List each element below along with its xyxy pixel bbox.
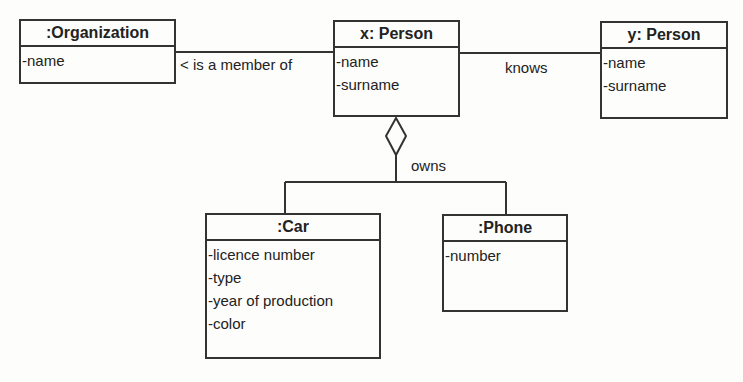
object-title: x: Person xyxy=(335,22,458,48)
attribute-list: -number xyxy=(444,242,566,267)
attribute-list: -licence number -type -year of productio… xyxy=(207,241,379,335)
knows-label: knows xyxy=(505,59,548,76)
attribute: -name xyxy=(603,51,726,74)
attribute: -type xyxy=(208,266,379,289)
attribute-list: -name xyxy=(21,47,174,72)
attribute-list: -name -surname xyxy=(335,48,458,96)
attribute: -name xyxy=(22,49,174,72)
owns-label: owns xyxy=(411,157,446,174)
object-title: y: Person xyxy=(602,23,726,49)
attribute: -year of production xyxy=(208,289,379,312)
object-organization: :Organization -name xyxy=(19,19,176,84)
object-x-person: x: Person -name -surname xyxy=(333,20,460,117)
attribute: -licence number xyxy=(208,243,379,266)
object-y-person: y: Person -name -surname xyxy=(600,21,728,119)
attribute: -number xyxy=(445,244,566,267)
object-title: :Car xyxy=(207,215,379,241)
object-title: :Organization xyxy=(21,21,174,47)
member-of-label: < is a member of xyxy=(180,56,292,73)
object-car: :Car -licence number -type -year of prod… xyxy=(205,213,381,359)
attribute: -name xyxy=(336,50,458,73)
aggregation-diamond-icon xyxy=(386,118,406,155)
attribute: -surname xyxy=(336,73,458,96)
object-phone: :Phone -number xyxy=(442,214,568,312)
attribute-list: -name -surname xyxy=(602,49,726,97)
attribute: -color xyxy=(208,312,379,335)
attribute: -surname xyxy=(603,74,726,97)
object-title: :Phone xyxy=(444,216,566,242)
